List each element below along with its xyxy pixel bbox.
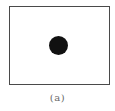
center-dot [49, 36, 68, 55]
figure-caption: (a) [0, 92, 115, 103]
